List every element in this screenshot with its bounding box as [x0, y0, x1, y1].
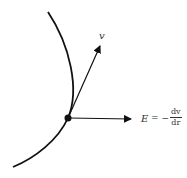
point-dot — [65, 115, 72, 122]
vector-E-arrow — [68, 118, 131, 119]
fraction-dv-dr: dv dr — [170, 108, 182, 127]
diagram-canvas — [0, 0, 187, 178]
label-equals: = − — [151, 114, 169, 123]
curve — [13, 12, 73, 167]
label-E: E — [141, 114, 148, 124]
label-v: v — [99, 31, 105, 41]
fraction-denominator: dr — [171, 118, 180, 128]
fraction-numerator: dv — [170, 108, 182, 118]
